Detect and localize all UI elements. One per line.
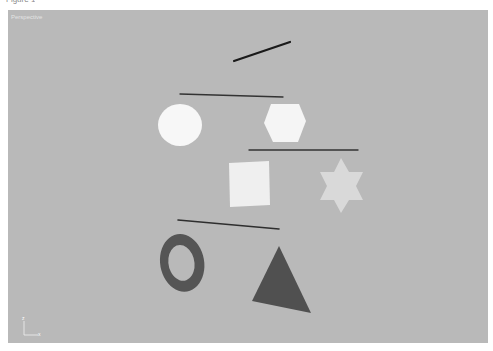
scene-torus[interactable] xyxy=(160,234,204,292)
axis-gizmo: z x xyxy=(22,315,41,337)
scene-star[interactable] xyxy=(320,158,363,213)
window-caption: Figure 1 xyxy=(6,0,35,4)
scene-line-top[interactable] xyxy=(234,42,290,61)
scene-circle[interactable] xyxy=(158,104,202,146)
axis-z-label: z xyxy=(22,315,25,321)
scene-square[interactable] xyxy=(229,161,270,207)
perspective-viewport[interactable]: Perspective z x xyxy=(8,10,488,343)
axis-x-label: x xyxy=(38,331,41,337)
scene-line-lower[interactable] xyxy=(178,220,279,229)
scene-line-upper[interactable] xyxy=(180,94,283,97)
scene-hexagon[interactable] xyxy=(264,104,306,142)
scene-canvas[interactable]: z x xyxy=(8,10,488,343)
scene-triangle[interactable] xyxy=(252,246,311,313)
